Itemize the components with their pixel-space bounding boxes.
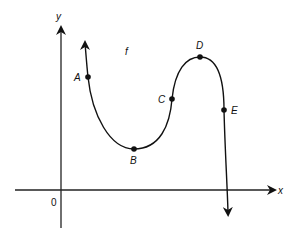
- function-graph: y x 0 f A B C D E: [0, 0, 289, 243]
- point-d-label: D: [196, 40, 203, 51]
- point-e: [221, 107, 227, 113]
- point-b: [131, 146, 137, 152]
- function-label: f: [125, 46, 129, 57]
- origin-label: 0: [51, 197, 57, 208]
- point-e-label: E: [231, 105, 238, 116]
- point-c: [169, 96, 175, 102]
- point-a-label: A: [73, 72, 81, 83]
- point-c-label: C: [158, 94, 166, 105]
- point-a: [85, 74, 91, 80]
- y-axis-label: y: [55, 11, 62, 22]
- point-b-label: B: [130, 155, 137, 166]
- function-curve: [85, 43, 228, 212]
- point-d: [197, 54, 203, 60]
- x-axis-label: x: [277, 185, 284, 196]
